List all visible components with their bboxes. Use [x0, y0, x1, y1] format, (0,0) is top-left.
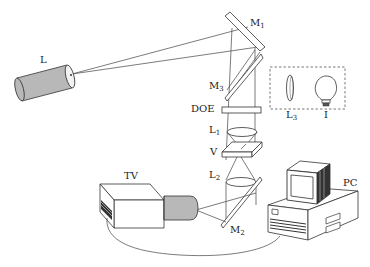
diagram-canvas: [0, 0, 370, 267]
tv-camera: [100, 184, 198, 228]
laser-l: [13, 64, 77, 102]
optical-setup-diagram: L M1 M3 DOE L1 V L2 M2 L3 I TV PC: [0, 0, 370, 267]
beam-v-to-l2: [226, 157, 255, 180]
illumination-box: [270, 67, 345, 109]
lamp-i: [315, 76, 336, 106]
pc: [268, 161, 358, 240]
sample-v: [222, 142, 262, 157]
doe-plate: [222, 107, 261, 113]
lens-l3: [287, 75, 294, 101]
